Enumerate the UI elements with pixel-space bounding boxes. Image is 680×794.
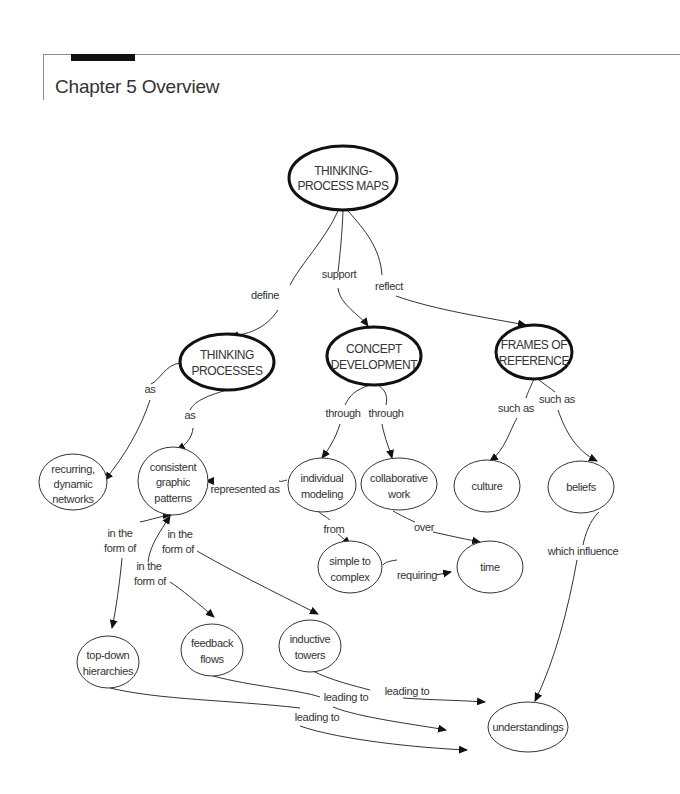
edge-form2-bottom xyxy=(197,551,318,614)
label-leading-to-2: leading to xyxy=(324,691,369,703)
edge-suchas1-top xyxy=(526,379,534,398)
concept-map: THINKING- PROCESS MAPS THINKING PROCESSE… xyxy=(0,0,680,794)
svg-text:simple to: simple to xyxy=(329,555,370,567)
node-recurring: recurring, dynamic networks xyxy=(51,463,95,505)
edge-through1-top xyxy=(345,385,370,405)
edge-support-bottom xyxy=(338,288,368,326)
edge-as2-top xyxy=(190,390,227,410)
edge-influence-top xyxy=(583,512,599,545)
svg-text:FRAMES OF: FRAMES OF xyxy=(501,338,567,352)
label-in-the-form-of-2: in the form of xyxy=(162,528,195,555)
edge-suchas2-top xyxy=(538,379,555,392)
node-beliefs: beliefs xyxy=(566,481,596,493)
edge-form3-bottom xyxy=(170,582,214,617)
edge-leading1-top xyxy=(110,688,300,708)
svg-text:form of: form of xyxy=(162,543,195,555)
edge-leading3-top xyxy=(313,671,370,690)
svg-text:DEVELOPMENT: DEVELOPMENT xyxy=(331,358,418,372)
edge-through1-bottom xyxy=(322,424,340,458)
edge-form1-bottom xyxy=(112,558,122,628)
svg-text:PROCESS MAPS: PROCESS MAPS xyxy=(297,179,389,193)
svg-text:feedback: feedback xyxy=(191,637,234,649)
svg-text:inductive: inductive xyxy=(290,633,331,645)
edge-leading3-bottom xyxy=(403,698,485,702)
svg-text:CONCEPT: CONCEPT xyxy=(346,342,403,356)
edge-as2-bottom xyxy=(177,428,193,450)
node-concept-development: CONCEPT DEVELOPMENT xyxy=(327,327,421,385)
edge-through2-top xyxy=(378,385,387,405)
svg-text:towers: towers xyxy=(295,649,326,661)
edge-support-top xyxy=(338,211,343,272)
edge-reflect-bottom xyxy=(396,296,526,325)
edge-influence-bottom xyxy=(535,560,577,701)
svg-text:top-down: top-down xyxy=(87,649,130,661)
svg-text:THINKING-: THINKING- xyxy=(314,164,372,178)
node-time: time xyxy=(480,561,500,573)
label-represented-as: represented as xyxy=(210,483,280,495)
edge-represented-right xyxy=(279,480,287,481)
edge-over-bottom xyxy=(433,532,480,542)
svg-text:REFERENCE: REFERENCE xyxy=(499,354,570,368)
label-such-as-2: such as xyxy=(539,393,576,405)
node-root: THINKING- PROCESS MAPS xyxy=(289,146,397,210)
edge-reflect-top xyxy=(348,211,382,275)
label-as-2: as xyxy=(184,409,196,421)
label-such-as-1: such as xyxy=(498,402,535,414)
label-through-2: through xyxy=(368,407,403,419)
svg-text:complex: complex xyxy=(331,571,371,583)
edge-requiring-left xyxy=(383,560,397,565)
node-frames-of-reference: FRAMES OF REFERENCE xyxy=(496,325,572,379)
label-reflect: reflect xyxy=(375,280,403,292)
edge-suchas2-bottom xyxy=(558,410,597,461)
svg-text:PROCESSES: PROCESSES xyxy=(191,364,262,378)
svg-text:form of: form of xyxy=(104,542,137,554)
edge-requiring-right xyxy=(436,572,451,575)
label-define: define xyxy=(251,289,279,301)
edge-over-top xyxy=(393,511,415,522)
svg-text:graphic: graphic xyxy=(156,476,191,488)
svg-text:consistent: consistent xyxy=(150,461,197,473)
label-from: from xyxy=(324,523,345,535)
label-as-1: as xyxy=(144,383,156,395)
svg-text:flows: flows xyxy=(200,653,224,665)
svg-text:patterns: patterns xyxy=(154,492,192,504)
svg-text:in the: in the xyxy=(136,560,161,572)
label-over: over xyxy=(414,521,435,533)
svg-text:form of: form of xyxy=(134,575,167,587)
label-through-1: through xyxy=(325,407,360,419)
svg-text:individual: individual xyxy=(301,472,344,484)
label-leading-to-3: leading to xyxy=(385,685,430,697)
node-consistent-patterns: consistent graphic patterns xyxy=(150,461,197,504)
svg-text:dynamic: dynamic xyxy=(54,478,94,490)
edge-as1-top xyxy=(151,363,180,384)
edge-through2-bottom xyxy=(382,424,392,458)
svg-text:modeling: modeling xyxy=(301,488,343,500)
svg-text:in the: in the xyxy=(107,527,132,539)
node-culture: culture xyxy=(472,480,503,492)
label-which-influence: which influence xyxy=(547,545,619,557)
edge-leading2-top xyxy=(213,676,320,697)
label-support: support xyxy=(322,268,357,280)
label-in-the-form-of-3: in the form of xyxy=(134,560,167,587)
node-thinking-processes: THINKING PROCESSES xyxy=(180,334,274,390)
edge-suchas1-bottom xyxy=(490,418,517,461)
edge-leading2-bottom xyxy=(333,707,446,730)
svg-text:recurring,: recurring, xyxy=(51,463,95,475)
edge-define-bottom xyxy=(230,310,278,336)
label-requiring: requiring xyxy=(397,569,437,581)
svg-text:THINKING: THINKING xyxy=(200,348,254,362)
label-leading-to-1: leading to xyxy=(295,711,340,723)
svg-text:work: work xyxy=(387,488,411,500)
svg-text:networks: networks xyxy=(52,493,94,505)
node-understandings: understandings xyxy=(492,721,564,733)
svg-text:collaborative: collaborative xyxy=(370,472,428,484)
svg-text:in the: in the xyxy=(167,528,192,540)
label-in-the-form-of-1: in the form of xyxy=(104,527,137,554)
svg-text:hierarchies: hierarchies xyxy=(83,665,134,677)
